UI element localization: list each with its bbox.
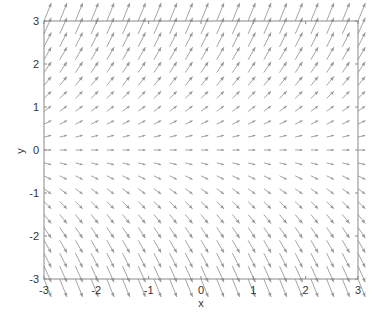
y-tick-label: -3 [29,273,39,285]
x-tick-label: 0 [198,284,204,296]
arrowhead-icon [363,149,366,151]
y-tick-label: 3 [33,15,39,27]
y-tick-label: -1 [29,187,39,199]
x-axis-label: x [198,297,204,309]
vector-field-chart: -3-2-10123 -3-2-10123 x y [0,0,382,323]
arrowhead-icon [362,62,366,66]
y-tick-label: 0 [33,144,39,156]
y-tick-label: -2 [29,230,39,242]
arrowhead-icon [362,234,366,238]
x-tick-label: 2 [303,284,309,296]
x-tick-label: -3 [39,284,49,296]
x-tick-label: -1 [144,284,154,296]
y-axis-label: y [14,148,26,154]
y-tick-label: 2 [33,58,39,70]
y-tick-label: 1 [33,101,39,113]
x-tick-label: 1 [250,284,256,296]
x-tick-label: 3 [355,284,361,296]
x-tick-label: -2 [91,284,101,296]
